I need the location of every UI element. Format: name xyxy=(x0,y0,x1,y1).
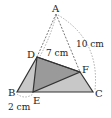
measure-BE: 2 cm xyxy=(8,102,31,112)
geometry-diagram: A D B E C F 7 cm 10 cm 2 cm xyxy=(0,0,111,118)
measure-AD: 7 cm xyxy=(46,48,69,58)
label-F: F xyxy=(82,64,89,75)
dimension-arc-2cm xyxy=(17,94,33,97)
label-E: E xyxy=(33,95,40,106)
label-C: C xyxy=(95,88,103,99)
label-B: B xyxy=(8,87,15,98)
label-D: D xyxy=(27,49,35,60)
label-A: A xyxy=(51,3,60,14)
measure-AC: 10 cm xyxy=(76,39,104,49)
